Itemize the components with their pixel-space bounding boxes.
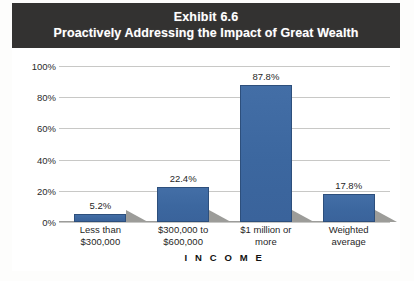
bar-shadow (126, 210, 148, 222)
y-axis-tick-label: 60% (37, 123, 56, 134)
x-axis-title: I N C O M E (59, 252, 390, 263)
bar[interactable] (74, 214, 126, 222)
bar[interactable] (240, 85, 292, 222)
bar-value-label: 17.8% (335, 180, 362, 191)
bar-slot: 22.4% (157, 66, 209, 222)
bar-value-label: 87.8% (252, 71, 279, 82)
exhibit-screenshot: Exhibit 6.6 Proactively Addressing the I… (0, 0, 414, 281)
category-label-line: $600,000 (142, 236, 225, 248)
bar-shadow (209, 210, 231, 222)
y-axis-tick-label: 40% (37, 154, 56, 165)
bar[interactable] (157, 187, 209, 222)
category-axis-labels: Less than$300,000$300,000 to$600,000$1 m… (59, 224, 390, 252)
bar-slot: 87.8% (240, 66, 292, 222)
y-axis-tick-label: 0% (42, 217, 56, 228)
bar-value-label: 22.4% (170, 173, 197, 184)
category-label-line: Less than (59, 224, 142, 236)
gridline (59, 222, 390, 223)
exhibit-number: Exhibit 6.6 (174, 9, 239, 25)
exhibit-title-band: Exhibit 6.6 Proactively Addressing the I… (12, 3, 400, 48)
bar-slot: 17.8% (323, 66, 375, 222)
bar-shadow (375, 210, 397, 222)
chart-container: 0%20%40%60%80%100% 5.2%22.4%87.8%17.8% L… (12, 48, 400, 271)
category-label-line: average (307, 236, 390, 248)
category-label-line: $300,000 to (142, 224, 225, 236)
category-label: Weightedaverage (307, 224, 390, 247)
category-label-line: more (225, 236, 308, 248)
bar-slot: 5.2% (74, 66, 126, 222)
y-axis: 0%20%40%60%80%100% (12, 66, 59, 222)
exhibit-title: Proactively Addressing the Impact of Gre… (54, 25, 359, 42)
category-label-line: Weighted (307, 224, 390, 236)
category-label: $300,000 to$600,000 (142, 224, 225, 247)
y-axis-tick-label: 20% (37, 185, 56, 196)
category-label-line: $1 million or (225, 224, 308, 236)
category-label: Less than$300,000 (59, 224, 142, 247)
category-label-line: $300,000 (59, 236, 142, 248)
y-axis-tick-label: 100% (32, 61, 56, 72)
y-axis-tick-label: 80% (37, 92, 56, 103)
bar-shadow (292, 210, 314, 222)
bar-value-label: 5.2% (90, 200, 112, 211)
bar[interactable] (323, 194, 375, 222)
category-label: $1 million ormore (225, 224, 308, 247)
plot-area: 5.2%22.4%87.8%17.8% (59, 66, 390, 222)
bar-series: 5.2%22.4%87.8%17.8% (59, 66, 390, 222)
